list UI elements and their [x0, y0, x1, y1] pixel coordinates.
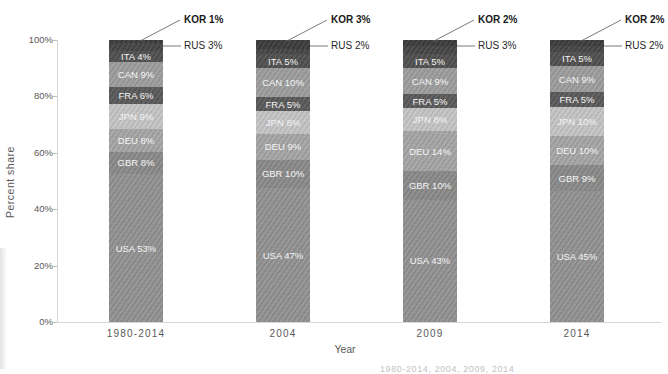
bar-segment-can: CAN 10% — [256, 68, 310, 96]
bar-segment-label: CAN 9% — [118, 69, 154, 80]
y-tick-label: 100% — [12, 34, 53, 46]
bar-segment-deu: DEU 14% — [403, 131, 457, 171]
bar-segment-deu: DEU 10% — [550, 136, 604, 165]
bar-segment-label: FRA 5% — [413, 96, 448, 107]
bar-segment-can: CAN 9% — [403, 68, 457, 94]
bar-segment-label: ITA 5% — [562, 53, 592, 64]
callout-kor-label: KOR 2% — [478, 13, 517, 26]
y-tick-mark — [53, 322, 57, 323]
bar-segment-kor — [403, 40, 457, 46]
bar-segment-label: FRA 5% — [560, 94, 595, 105]
bar-segment-jpn: JPN 10% — [550, 107, 604, 136]
y-tick-label: 20% — [12, 260, 53, 272]
bar-segment-usa: USA 47% — [256, 188, 310, 322]
bar-segment-label: JPN 10% — [557, 116, 597, 127]
bar-segment-ita: ITA 5% — [256, 54, 310, 68]
bar-segment-label: CAN 10% — [262, 77, 304, 88]
bar-segment-gbr: GBR 10% — [403, 171, 457, 199]
bar-segment-can: CAN 9% — [550, 66, 604, 92]
y-tick-label: 60% — [12, 147, 53, 159]
bar-segment-kor — [256, 40, 310, 49]
bar-segment-ita: ITA 5% — [550, 52, 604, 67]
bar-segment-label: GBR 8% — [118, 157, 155, 168]
bar-segment-jpn: JPN 9% — [109, 104, 163, 129]
bar-segment-label: FRA 5% — [266, 99, 301, 110]
x-axis-category-label: 2009 — [370, 328, 490, 339]
bar-segment-label: USA 47% — [263, 250, 304, 261]
x-axis-line — [57, 322, 661, 323]
bar-segment-rus — [109, 43, 163, 51]
bar-segment-label: USA 53% — [116, 243, 157, 254]
bar-segment-fra: FRA 5% — [256, 97, 310, 111]
y-tick-mark — [53, 96, 57, 97]
bar-segment-label: FRA 6% — [119, 90, 154, 101]
callout-rus-label: RUS 3% — [478, 39, 516, 52]
bar-segment-label: DEU 9% — [265, 141, 301, 152]
bar-segment-label: ITA 5% — [415, 56, 445, 67]
y-tick-mark — [53, 266, 57, 267]
bar-segment-label: GBR 9% — [559, 173, 596, 184]
page-edge-shadow — [0, 248, 7, 369]
bar-segment-label: GBR 10% — [409, 180, 451, 191]
bar-segment-deu: DEU 9% — [256, 134, 310, 160]
bar-segment-label: CAN 9% — [412, 76, 448, 87]
bar-segment-label: JPN 8% — [266, 117, 300, 128]
y-axis-title: Percent share — [4, 105, 18, 260]
bar-segment-jpn: JPN 8% — [256, 111, 310, 134]
callout-kor-label: KOR 2% — [625, 13, 664, 26]
bar-segment-rus — [550, 46, 604, 52]
bar-segment-usa: USA 53% — [109, 174, 163, 322]
callout-rus-label: RUS 2% — [331, 39, 369, 52]
bar-segment-rus — [256, 49, 310, 55]
bar-segment-label: DEU 10% — [556, 145, 598, 156]
bar-segment-kor — [550, 40, 604, 46]
bar-segment-label: CAN 9% — [559, 74, 595, 85]
bar-segment-gbr: GBR 9% — [550, 165, 604, 191]
bar-segment-deu: DEU 8% — [109, 129, 163, 151]
bar-segment-label: USA 43% — [410, 255, 451, 266]
bar-segment-ita: ITA 5% — [403, 54, 457, 68]
bar-segment-kor — [109, 40, 163, 43]
bar-segment-fra: FRA 6% — [109, 87, 163, 104]
x-axis-category-label: 1980-2014 — [76, 328, 196, 339]
y-tick-label: 0% — [12, 316, 53, 328]
callout-rus-label: RUS 3% — [184, 39, 222, 52]
bar-segment-jpn: JPN 8% — [403, 108, 457, 131]
callout-kor-label: KOR 1% — [184, 13, 223, 26]
y-tick-label: 40% — [12, 203, 53, 215]
y-tick-label: 80% — [12, 90, 53, 102]
bar-segment-usa: USA 43% — [403, 200, 457, 322]
bar-segment-fra: FRA 5% — [403, 94, 457, 108]
bar-segment-rus — [403, 46, 457, 55]
caption-cropped: 1980-2014, 2004, 2009, 2014 — [380, 364, 514, 374]
x-axis-category-label: 2014 — [517, 328, 637, 339]
bar-segment-can: CAN 9% — [109, 62, 163, 87]
x-axis-title: Year — [285, 343, 405, 355]
bar-segment-gbr: GBR 10% — [256, 160, 310, 188]
y-tick-mark — [53, 40, 57, 41]
callout-kor-label: KOR 3% — [331, 13, 370, 26]
y-axis-line — [57, 40, 58, 323]
y-tick-mark — [53, 153, 57, 154]
bar-segment-ita: ITA 4% — [109, 51, 163, 62]
bar-segment-label: JPN 8% — [413, 114, 447, 125]
bar-segment-label: GBR 10% — [262, 168, 304, 179]
bar-segment-label: ITA 5% — [268, 56, 298, 67]
bar-segment-label: DEU 8% — [118, 135, 154, 146]
bar-segment-fra: FRA 5% — [550, 92, 604, 107]
bar-segment-label: USA 45% — [557, 251, 598, 262]
y-tick-mark — [53, 209, 57, 210]
bar-segment-usa: USA 45% — [550, 191, 604, 322]
x-axis-category-label: 2004 — [223, 328, 343, 339]
bar-segment-label: DEU 14% — [409, 146, 451, 157]
bar-segment-gbr: GBR 8% — [109, 152, 163, 174]
bar-segment-label: ITA 4% — [121, 51, 151, 62]
bar-segment-label: JPN 9% — [119, 111, 153, 122]
callout-rus-label: RUS 2% — [625, 39, 663, 52]
